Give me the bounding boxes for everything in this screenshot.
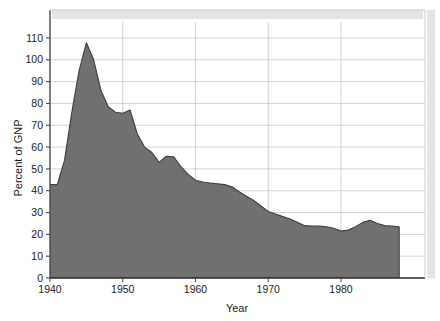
x-axis-title: Year — [226, 302, 249, 314]
y-tick-label: 30 — [31, 206, 43, 218]
y-tick-label: 50 — [31, 163, 43, 175]
y-tick-label: 100 — [25, 53, 43, 65]
y-tick-label: 10 — [31, 250, 43, 262]
y-axis-title: Percent of GNP — [12, 119, 24, 196]
y-tick-label: 110 — [26, 32, 43, 44]
y-tick-label: 0 — [37, 272, 43, 284]
y-tick-label: 90 — [31, 75, 43, 87]
y-tick-label: 40 — [31, 184, 43, 196]
chart-figure: 0102030405060708090100110 19401950196019… — [0, 0, 440, 321]
y-tick-label: 60 — [31, 141, 43, 153]
x-tick-label: 1960 — [184, 283, 208, 295]
x-tick-label: 1940 — [38, 283, 62, 295]
area-chart: 0102030405060708090100110 19401950196019… — [0, 0, 440, 321]
x-tick-label: 1970 — [257, 283, 281, 295]
y-tick-label: 20 — [31, 228, 43, 240]
x-tick-label: 1980 — [329, 283, 353, 295]
y-tick-label: 70 — [31, 119, 43, 131]
x-tick-label: 1950 — [111, 283, 135, 295]
y-tick-label: 80 — [31, 97, 43, 109]
